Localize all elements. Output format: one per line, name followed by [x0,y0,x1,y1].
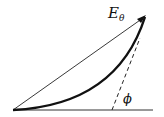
diagram-canvas [0,0,164,117]
e-symbol: E [108,4,119,22]
e-theta-label: Eθ [108,4,124,23]
phi-label: ϕ [123,91,132,106]
theta-subscript: θ [119,13,124,23]
